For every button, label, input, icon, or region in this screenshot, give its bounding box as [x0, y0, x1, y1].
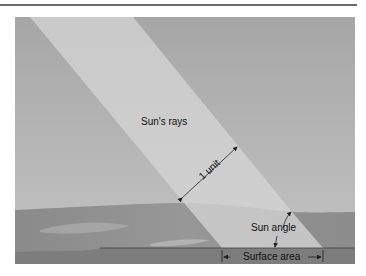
- surface-area-label: Surface area: [243, 251, 300, 262]
- top-rule: [0, 4, 357, 6]
- sun-angle-label: Sun angle: [251, 222, 296, 233]
- sun-angle-diagram: [15, 17, 355, 264]
- diagram-canvas: [15, 17, 355, 264]
- suns-rays-label: Sun's rays: [141, 116, 187, 127]
